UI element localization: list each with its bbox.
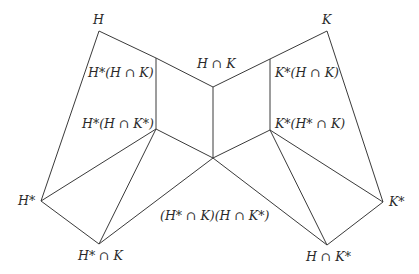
label-Hstar: H*	[18, 195, 35, 208]
edge-HstarK-HstarHKstar	[99, 129, 156, 244]
edge-Hstar-HstarHKstar	[41, 129, 156, 201]
butterfly-diagram	[0, 0, 419, 274]
label-Hstar-H-cap-Kstar: H*(H ∩ K*)	[82, 118, 154, 131]
edge-KstarHK-K	[270, 31, 327, 59]
edge-Kstar-KstarHstarK	[270, 130, 383, 202]
edge-H-HstarHK	[99, 31, 156, 58]
label-center-product: (H* ∩ K)(H ∩ K*)	[160, 210, 269, 223]
edge-HKstar-center	[213, 158, 327, 245]
edge-HstarK-center	[99, 158, 213, 244]
edge-center-KstarHstarK	[213, 130, 270, 158]
label-Kstar: K*	[389, 196, 405, 209]
label-Kstar-Hstar-cap-K: K*(H* ∩ K)	[275, 118, 345, 131]
edge-HstarHKstar-center	[156, 129, 213, 158]
label-K: K	[322, 14, 331, 27]
label-H: H	[93, 14, 104, 27]
label-Hstar-cap-K: H* ∩ K	[78, 250, 123, 263]
edge-HKstar-KstarHstarK	[270, 130, 327, 245]
edge-Kstar-HKstar	[327, 202, 383, 245]
edge-Hstar-HstarK	[41, 201, 99, 244]
label-H-cap-Kstar: H ∩ K*	[306, 251, 351, 264]
label-H-cap-K: H ∩ K	[197, 58, 236, 71]
label-Hstar-H-cap-K: H*(H ∩ K)	[88, 67, 154, 80]
label-Kstar-H-cap-K: K*(H ∩ K)	[275, 67, 339, 80]
